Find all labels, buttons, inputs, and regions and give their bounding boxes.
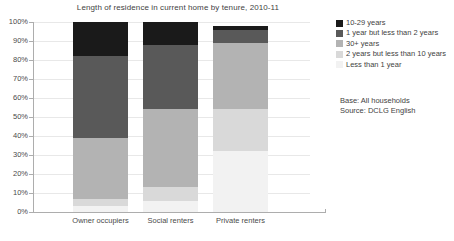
bar-segment[interactable] [213,43,268,110]
y-axis-tick-mark [29,136,33,137]
bar-segment[interactable] [143,45,198,110]
legend-swatch-icon [336,40,343,47]
bar-segment[interactable] [143,109,198,187]
legend-label: 30+ years [346,40,379,48]
y-axis-tick-label: 10% [2,189,28,197]
bar-private-renters[interactable] [213,26,268,212]
legend-item[interactable]: 1 year but less than 2 years [336,29,454,37]
bar-segment[interactable] [213,109,268,151]
y-axis-tick-mark [29,174,33,175]
y-axis-labels: 100%90%80%70%60%50%40%30%20%10%0% [0,0,28,241]
legend-swatch-icon [336,20,343,27]
y-axis-line [33,22,34,213]
bar-segment[interactable] [143,201,198,212]
y-axis-tick-mark [29,41,33,42]
y-axis-tick-label: 0% [2,208,28,216]
legend-item[interactable]: Less than 1 year [336,61,454,69]
bar-segment[interactable] [143,187,198,200]
y-axis-tick-label: 30% [2,151,28,159]
legend-label: 10-29 years [346,19,386,27]
y-axis-tick-label: 100% [2,18,28,26]
y-axis-tick-label: 70% [2,75,28,83]
bar-segment[interactable] [73,22,128,56]
x-axis-line [33,212,325,213]
bar-segment[interactable] [143,22,198,45]
x-axis-tick-mark [33,209,34,213]
bar-owner-occupiers[interactable] [73,22,128,212]
x-axis-tick-mark [325,209,326,213]
bar-social-renters[interactable] [143,22,198,212]
x-axis-category-label: Private renters [196,216,286,225]
bar-segment[interactable] [213,151,268,212]
plot-area [33,22,310,212]
chart-container: Length of residence in current home by t… [0,0,454,241]
legend-label: 1 year but less than 2 years [346,29,438,37]
y-axis-tick-mark [29,79,33,80]
y-axis-tick-label: 90% [2,37,28,45]
legend-label: 2 years but less than 10 years [346,50,446,58]
legend-item[interactable]: 30+ years [336,40,454,48]
bar-segment[interactable] [73,199,128,207]
legend-swatch-icon [336,51,343,58]
legend-label: Less than 1 year [346,61,401,69]
bar-segment[interactable] [73,56,128,138]
bar-segment[interactable] [213,30,268,43]
y-axis-tick-mark [29,117,33,118]
legend: 10-29 years1 year but less than 2 years3… [336,19,454,71]
footnote-source: Source: DCLG English [340,106,415,116]
y-axis-tick-label: 60% [2,94,28,102]
y-axis-tick-label: 80% [2,56,28,64]
legend-swatch-icon [336,30,343,37]
bar-segment[interactable] [73,138,128,199]
y-axis-tick-mark [29,60,33,61]
y-axis-tick-mark [29,193,33,194]
y-axis-tick-label: 20% [2,170,28,178]
footnote-base: Base: All households [340,96,415,106]
legend-item[interactable]: 2 years but less than 10 years [336,50,454,58]
chart-title: Length of residence in current home by t… [33,3,323,12]
y-axis-tick-mark [29,155,33,156]
legend-item[interactable]: 10-29 years [336,19,454,27]
y-axis-tick-mark [29,22,33,23]
y-axis-tick-label: 40% [2,132,28,140]
y-axis-tick-label: 50% [2,113,28,121]
chart-footnotes: Base: All households Source: DCLG Englis… [340,96,415,116]
y-axis-tick-mark [29,98,33,99]
legend-swatch-icon [336,61,343,68]
